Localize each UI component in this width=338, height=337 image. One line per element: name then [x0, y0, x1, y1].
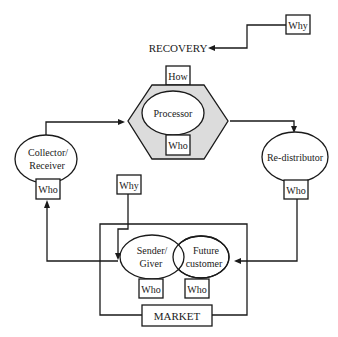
sender-label-line2: Giver [140, 258, 163, 269]
recovery-why-group: Why RECOVERY [149, 15, 310, 54]
processor-how-label: How [168, 71, 188, 82]
collector-node: Collector/ Receiver Who [15, 135, 77, 199]
recovery-label: RECOVERY [149, 42, 208, 54]
market-group: Why Sender/ Giver Future customer Who Wh… [100, 175, 247, 326]
future-customer-label-line1: Future [193, 245, 220, 256]
collector-who-label: Who [38, 184, 57, 195]
arrowhead-icon [44, 200, 50, 208]
redistributor-node: Re-distributor Who [262, 132, 328, 199]
redistributor-who-label: Who [286, 185, 305, 196]
processor-label: Processor [154, 108, 194, 119]
processor-who-label: Who [168, 140, 187, 151]
sender-ellipse [120, 235, 184, 279]
sender-who-label: Who [141, 284, 160, 295]
processor-to-redistributor-connector [230, 121, 294, 127]
sender-to-collector-connector [47, 207, 118, 261]
recovery-why-label: Why [288, 20, 307, 31]
future-customer-label-line2: customer [186, 258, 223, 269]
why-to-recovery-connector [214, 25, 286, 48]
arrowhead-icon [234, 258, 241, 264]
processor-node: How Processor Who [128, 66, 228, 159]
collector-to-processor-connector [46, 122, 119, 135]
market-why-label: Why [119, 180, 138, 191]
recovery-flow-diagram: Why RECOVERY How Processor Who Collector… [0, 0, 338, 337]
arrowhead-icon [118, 119, 125, 125]
redistributor-to-future-customer-connector [240, 199, 297, 261]
sender-label-line1: Sender/ [137, 245, 168, 256]
collector-label-line1: Collector/ [28, 147, 68, 158]
future-customer-who-label: Who [187, 284, 206, 295]
arrowhead-icon [208, 45, 215, 51]
market-label: MARKET [154, 310, 201, 322]
redistributor-label: Re-distributor [267, 152, 324, 163]
collector-label-line2: Receiver [29, 160, 65, 171]
collector-ellipse [15, 135, 77, 183]
